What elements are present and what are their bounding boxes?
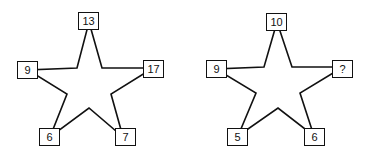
star-left-right-box: 17: [143, 60, 164, 78]
star-left-bottom-left-box: 6: [39, 128, 60, 146]
star-right-top-box: 10: [266, 13, 287, 31]
star-left-left-box: 9: [17, 61, 38, 79]
star-left-top-box: 13: [78, 12, 99, 30]
star-right-left-box: 9: [206, 60, 227, 78]
star-right-right-box: ?: [332, 60, 353, 78]
star-right-bottom-left-box: 5: [227, 128, 248, 146]
star-left-bottom-right-box: 7: [115, 128, 136, 146]
star-left-outline: [28, 22, 153, 137]
star-right-bottom-right-box: 6: [304, 128, 325, 146]
star-right-outline: [216, 22, 343, 136]
